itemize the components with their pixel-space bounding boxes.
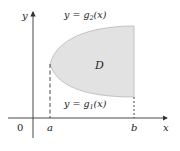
x-axis-label: x <box>163 122 169 133</box>
eq-prefix: y = <box>63 9 83 20</box>
eq-arg: (x) <box>94 9 107 20</box>
bound-b-label: b <box>131 122 137 133</box>
y-axis-label: y <box>21 10 28 21</box>
eq-arg: (x) <box>94 98 107 109</box>
region-diagram: y x 0 a b D y = g2(x) y = g1(x) <box>0 0 180 151</box>
eq-prefix: y = <box>63 98 83 109</box>
upper-curve-equation: y = g2(x) <box>63 9 107 22</box>
bound-a-label: a <box>47 122 53 133</box>
region-d <box>50 26 134 97</box>
origin-label: 0 <box>17 122 23 133</box>
lower-curve-equation: y = g1(x) <box>63 98 107 111</box>
region-label: D <box>94 59 104 72</box>
